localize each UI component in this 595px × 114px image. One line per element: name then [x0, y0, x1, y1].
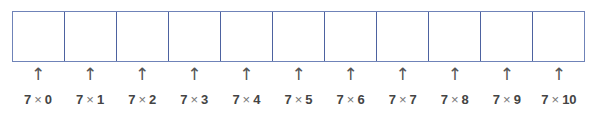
multiplication-label: 7×8: [425, 92, 485, 107]
factor-b: 1: [97, 92, 104, 107]
times-sign: ×: [243, 92, 251, 107]
marker: ↑7×0: [8, 64, 68, 107]
marker: ↑7×10: [529, 64, 589, 107]
marker: ↑7×4: [216, 64, 276, 107]
factor-a: 7: [128, 92, 135, 107]
multiplication-label: 7×7: [373, 92, 433, 107]
up-arrow-icon: ↑: [321, 64, 381, 86]
up-arrow-icon: ↑: [477, 64, 537, 86]
times-sign: ×: [503, 92, 511, 107]
up-arrow-icon: ↑: [8, 64, 68, 86]
box-cell: [325, 12, 377, 61]
factor-b: 3: [201, 92, 208, 107]
multiplication-label: 7×5: [269, 92, 329, 107]
factor-a: 7: [541, 92, 548, 107]
multiplication-label: 7×6: [321, 92, 381, 107]
factor-b: 10: [562, 92, 576, 107]
box-cell: [65, 12, 117, 61]
marker: ↑7×8: [425, 64, 485, 107]
times-sign: ×: [552, 92, 560, 107]
box-cell: [533, 12, 584, 61]
times-sign: ×: [399, 92, 407, 107]
factor-a: 7: [389, 92, 396, 107]
multiplication-label: 7×4: [216, 92, 276, 107]
multiplication-label: 7×0: [8, 92, 68, 107]
marker: ↑7×1: [60, 64, 120, 107]
times-sign: ×: [86, 92, 94, 107]
box-cell: [13, 12, 65, 61]
marker: ↑7×5: [269, 64, 329, 107]
multiplication-label: 7×3: [164, 92, 224, 107]
marker-labels: ↑7×0↑7×1↑7×2↑7×3↑7×4↑7×5↑7×6↑7×7↑7×8↑7×9…: [12, 64, 585, 114]
up-arrow-icon: ↑: [216, 64, 276, 86]
times-sign: ×: [347, 92, 355, 107]
factor-b: 0: [45, 92, 52, 107]
marker: ↑7×3: [164, 64, 224, 107]
times-sign: ×: [191, 92, 199, 107]
multiplication-label: 7×9: [477, 92, 537, 107]
factor-a: 7: [180, 92, 187, 107]
factor-a: 7: [232, 92, 239, 107]
multiplication-label: 7×2: [112, 92, 172, 107]
marker: ↑7×2: [112, 64, 172, 107]
box-cell: [481, 12, 533, 61]
factor-b: 9: [514, 92, 521, 107]
marker: ↑7×6: [321, 64, 381, 107]
factor-a: 7: [76, 92, 83, 107]
box-cell: [273, 12, 325, 61]
factor-a: 7: [337, 92, 344, 107]
box-cell: [117, 12, 169, 61]
box-strip: [12, 11, 585, 62]
box-cell: [169, 12, 221, 61]
times-sign: ×: [451, 92, 459, 107]
up-arrow-icon: ↑: [60, 64, 120, 86]
up-arrow-icon: ↑: [425, 64, 485, 86]
factor-b: 8: [462, 92, 469, 107]
up-arrow-icon: ↑: [529, 64, 589, 86]
multiplication-label: 7×10: [529, 92, 589, 107]
factor-a: 7: [441, 92, 448, 107]
factor-a: 7: [493, 92, 500, 107]
factor-b: 6: [357, 92, 364, 107]
multiplication-label: 7×1: [60, 92, 120, 107]
up-arrow-icon: ↑: [373, 64, 433, 86]
marker: ↑7×7: [373, 64, 433, 107]
up-arrow-icon: ↑: [269, 64, 329, 86]
factor-b: 7: [409, 92, 416, 107]
factor-b: 4: [253, 92, 260, 107]
times-sign: ×: [34, 92, 42, 107]
box-cell: [377, 12, 429, 61]
factor-b: 5: [305, 92, 312, 107]
factor-b: 2: [149, 92, 156, 107]
marker: ↑7×9: [477, 64, 537, 107]
box-cell: [221, 12, 273, 61]
box-cell: [429, 12, 481, 61]
up-arrow-icon: ↑: [164, 64, 224, 86]
factor-a: 7: [24, 92, 31, 107]
factor-a: 7: [284, 92, 291, 107]
up-arrow-icon: ↑: [112, 64, 172, 86]
times-sign: ×: [295, 92, 303, 107]
times-sign: ×: [138, 92, 146, 107]
